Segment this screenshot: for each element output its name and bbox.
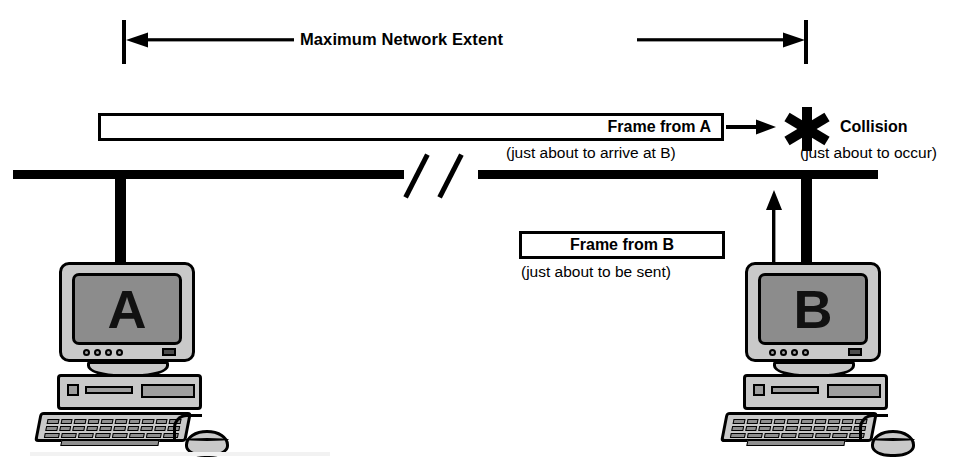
extent-label: Maximum Network Extent <box>300 31 503 48</box>
keyboard-key <box>128 419 141 424</box>
frame-from-b-box: Frame from B <box>519 231 725 259</box>
keyboard-key <box>112 433 128 438</box>
keyboard-key <box>787 419 800 424</box>
keyboard-keys <box>44 419 181 435</box>
keyboard-key <box>828 419 841 424</box>
keyboard-key <box>758 426 771 431</box>
computer-b-power-led <box>848 348 862 356</box>
monitor-knob <box>802 349 809 356</box>
keyboard-key <box>74 419 87 424</box>
keyboard-spacebar <box>60 440 159 446</box>
keyboard-key <box>78 433 94 438</box>
keyboard-key <box>773 419 786 424</box>
computer-b-keyboard <box>720 412 878 442</box>
keyboard-key <box>59 426 72 431</box>
keyboard-key <box>129 433 145 438</box>
computer-b-drive-slot-2 <box>827 384 881 398</box>
computer-b-power-button <box>753 384 765 396</box>
computer-a-drive-slot <box>85 386 133 394</box>
computer-b-mouse <box>871 430 915 457</box>
keyboard-key <box>760 419 773 424</box>
monitor-knob <box>83 349 90 356</box>
keyboard-key <box>101 419 114 424</box>
keyboard-key <box>745 426 758 431</box>
keyboard-keys <box>730 419 867 435</box>
keyboard-key <box>730 433 746 438</box>
keyboard-key <box>95 433 111 438</box>
keyboard-key <box>87 419 100 424</box>
frame-from-b-label: Frame from B <box>570 237 674 253</box>
keyboard-key <box>841 419 854 424</box>
computer-b-screen-letter: B <box>794 282 833 336</box>
keyboard-key <box>45 426 58 431</box>
computer-b-drop-cable <box>801 178 812 270</box>
keyboard-row <box>730 433 865 438</box>
keyboard-key <box>140 426 153 431</box>
keyboard-key <box>826 426 839 431</box>
keyboard-key <box>154 426 167 431</box>
computer-a-mouse-button-split <box>185 438 229 441</box>
keyboard-key <box>47 419 60 424</box>
desktop-computer-icon-b: B <box>731 262 931 447</box>
keyboard-key <box>746 419 759 424</box>
keyboard-key <box>815 433 831 438</box>
network-extent-measure: Maximum Network Extent <box>0 0 979 80</box>
computer-a-keyboard <box>34 412 192 442</box>
monitor-knob <box>94 349 101 356</box>
monitor-knob <box>780 349 787 356</box>
frame-b-arrow-up-icon <box>765 190 783 270</box>
keyboard-key <box>115 419 128 424</box>
keyboard-key <box>61 433 77 438</box>
scan-artifact-strip <box>30 452 330 456</box>
collision-caption: (just about to occur) <box>800 145 937 161</box>
computer-a-power-led <box>162 348 176 356</box>
keyboard-key <box>764 433 780 438</box>
keyboard-key <box>100 426 113 431</box>
keyboard-row <box>45 426 180 431</box>
keyboard-row <box>731 426 866 431</box>
keyboard-key <box>801 419 814 424</box>
keyboard-key <box>747 433 763 438</box>
keyboard-key <box>60 419 73 424</box>
keyboard-key <box>786 426 799 431</box>
keyboard-spacebar <box>746 440 845 446</box>
computer-b-drive-slot <box>771 386 819 394</box>
monitor-knob <box>116 349 123 356</box>
frame-from-a-caption: (just about to arrive at B) <box>506 145 676 161</box>
keyboard-row <box>47 419 182 424</box>
keyboard-key <box>731 426 744 431</box>
computer-a-screen: A <box>72 273 182 345</box>
keyboard-key <box>72 426 85 431</box>
computer-a-screen-letter: A <box>108 282 147 336</box>
keyboard-key <box>86 426 99 431</box>
keyboard-key <box>142 419 155 424</box>
diagram-canvas: Maximum Network Extent Frame from A (jus… <box>0 0 979 459</box>
frame-from-a-label: Frame from A <box>608 119 711 135</box>
frame-from-b-caption: (just about to be sent) <box>521 264 671 280</box>
computer-a-power-button <box>67 384 79 396</box>
keyboard-key <box>813 426 826 431</box>
keyboard-row <box>44 433 179 438</box>
monitor-knob <box>105 349 112 356</box>
computer-b-screen: B <box>758 273 868 345</box>
monitor-knob <box>791 349 798 356</box>
keyboard-key <box>814 419 827 424</box>
keyboard-key <box>832 433 848 438</box>
arrow-right-icon <box>637 32 805 48</box>
computer-a-monitor-knobs <box>83 349 123 356</box>
keyboard-key <box>840 426 853 431</box>
keyboard-key <box>146 433 162 438</box>
frame-a-arrow-right-icon <box>726 119 776 135</box>
keyboard-row <box>733 419 868 424</box>
computer-b-mouse-button-split <box>871 438 915 441</box>
keyboard-key <box>799 426 812 431</box>
computer-a-drive-slot-2 <box>141 384 195 398</box>
keyboard-key <box>772 426 785 431</box>
computer-b-monitor-knobs <box>769 349 809 356</box>
desktop-computer-icon-a: A <box>45 262 245 447</box>
keyboard-key <box>113 426 126 431</box>
collision-label: Collision <box>840 119 908 135</box>
monitor-knob <box>769 349 776 356</box>
frame-from-a-box: Frame from A <box>98 113 724 141</box>
keyboard-key <box>798 433 814 438</box>
